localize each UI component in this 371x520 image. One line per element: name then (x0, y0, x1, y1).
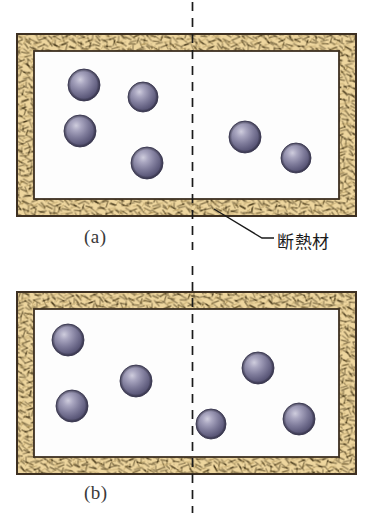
particle (68, 69, 100, 101)
particle (283, 403, 315, 435)
insulation-material-label: 断熱材 (277, 228, 330, 253)
caption-panel-b: (b) (84, 482, 108, 504)
caption-panel-a: (a) (84, 226, 107, 248)
particle (242, 352, 274, 384)
particle (64, 115, 96, 147)
particle (52, 324, 84, 356)
particle (281, 143, 311, 173)
particle (229, 121, 261, 153)
panel-b (17, 292, 356, 474)
particle (120, 365, 152, 397)
panel-a (17, 34, 356, 216)
figure-container: (a) (b) 断熱材 (0, 0, 371, 520)
insulated-container-figure (0, 0, 371, 520)
particle (131, 147, 163, 179)
particle (56, 390, 88, 422)
particle (196, 409, 226, 439)
particle (128, 82, 158, 112)
